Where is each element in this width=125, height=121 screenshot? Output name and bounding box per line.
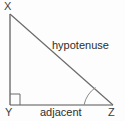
right-angle-square-icon	[10, 94, 20, 105]
vertex-label-z: Z	[108, 107, 115, 118]
vertex-label-y: Y	[5, 107, 12, 118]
triangle-figure	[0, 0, 125, 121]
side-label-hypotenuse: hypotenuse	[52, 40, 109, 51]
angle-arc-icon	[84, 88, 96, 106]
side-label-adjacent: adjacent	[40, 107, 82, 118]
vertex-label-x: X	[4, 1, 11, 12]
side-hypotenuse-line	[10, 14, 113, 105]
geometry-diagram: X Y Z hypotenuse adjacent	[0, 0, 125, 121]
